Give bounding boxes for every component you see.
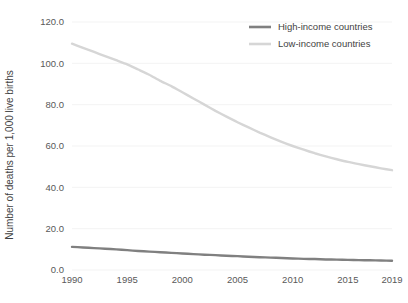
y-axis-tick-label: 20.0: [46, 223, 65, 234]
x-axis-tick-label: 2010: [282, 274, 303, 285]
series-line-2: [72, 44, 392, 170]
y-axis-tick-label: 60.0: [46, 140, 65, 151]
legend-label: High-income countries: [278, 21, 373, 32]
y-axis-tick-label: 80.0: [46, 99, 65, 110]
chart-container: 0.020.040.060.080.0100.0120.0 1990199520…: [0, 0, 408, 303]
data-series-group: [72, 44, 392, 261]
y-axis-tick-labels: 0.020.040.060.080.0100.0120.0: [40, 16, 64, 275]
x-axis-tick-labels: 1990199520002005201020152019: [61, 274, 402, 285]
x-axis-tick-label: 2005: [227, 274, 248, 285]
x-axis-tick-label: 2000: [172, 274, 193, 285]
y-axis-tick-label: 120.0: [40, 16, 64, 27]
x-axis-tick-label: 1990: [61, 274, 82, 285]
y-axis-tick-label: 40.0: [46, 182, 65, 193]
y-axis-tick-label: 100.0: [40, 58, 64, 69]
chart-legend: High-income countriesLow-income countrie…: [249, 21, 373, 49]
series-line-1: [72, 247, 392, 261]
x-axis-tick-label: 2015: [337, 274, 358, 285]
y-axis-title: Number of deaths per 1,000 live births: [4, 70, 15, 240]
gridlines: [72, 22, 392, 270]
line-chart: 0.020.040.060.080.0100.0120.0 1990199520…: [0, 0, 408, 303]
x-axis-tick-label: 2019: [381, 274, 402, 285]
legend-label: Low-income countries: [278, 38, 371, 49]
x-axis-tick-label: 1995: [117, 274, 138, 285]
